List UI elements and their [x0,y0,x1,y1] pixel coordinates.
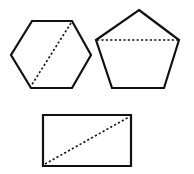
rectangle-shape [43,115,131,166]
hexagon-shape [11,21,91,88]
pentagon-outline [96,10,179,88]
hexagon-dashed-diagonal [31,23,71,86]
rectangle-dashed-diagonal [45,117,129,164]
diagram-canvas [0,0,194,174]
pentagon-shape [96,10,179,88]
